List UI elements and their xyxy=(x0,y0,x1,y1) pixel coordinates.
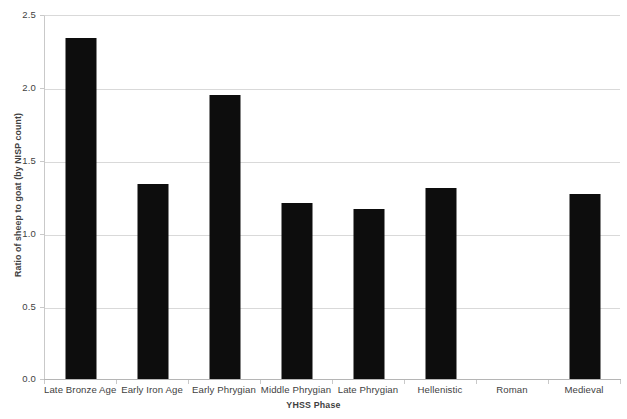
bar-medieval[interactable] xyxy=(570,194,601,379)
x-tick-label-middle-phrygian: Middle Phrygian xyxy=(260,384,332,395)
x-tick-mark-8 xyxy=(620,380,621,384)
bar-middle-phrygian[interactable] xyxy=(282,203,313,379)
plot-area xyxy=(44,15,620,379)
x-axis-title: YHSS Phase xyxy=(0,400,627,410)
x-tick-label-early-iron-age: Early Iron Age xyxy=(116,384,188,395)
bar-slot-early-iron-age xyxy=(117,16,189,379)
x-tick-label-hellenistic: Hellenistic xyxy=(404,384,476,395)
bar-slot-hellenistic xyxy=(405,16,477,379)
bar-early-iron-age[interactable] xyxy=(138,184,169,379)
bar-late-bronze-age[interactable] xyxy=(66,38,97,379)
bar-slot-medieval xyxy=(549,16,621,379)
bar-hellenistic[interactable] xyxy=(426,188,457,379)
bar-late-phrygian[interactable] xyxy=(354,209,385,379)
bar-chart-screenshot: 2.5 2.0 1.5 1.0 0.5 0.0 Ratio of sheep t… xyxy=(0,0,627,419)
x-tick-label-roman: Roman xyxy=(476,384,548,395)
bar-slot-early-phrygian xyxy=(189,16,261,379)
y-axis-title: Ratio of sheep to goat (by NISP count) xyxy=(13,95,23,295)
bar-slot-late-bronze-age xyxy=(45,16,117,379)
y-tick-label-0.5: 0.5 xyxy=(2,301,36,312)
x-tick-label-medieval: Medieval xyxy=(548,384,620,395)
y-tick-label-2.0: 2.0 xyxy=(2,82,36,93)
bar-slot-roman xyxy=(477,16,549,379)
bar-slot-middle-phrygian xyxy=(261,16,333,379)
bar-slot-late-phrygian xyxy=(333,16,405,379)
y-tick-label-2.5: 2.5 xyxy=(2,9,36,20)
x-tick-label-late-phrygian: Late Phrygian xyxy=(332,384,404,395)
x-tick-label-late-bronze-age: Late Bronze Age xyxy=(44,384,116,395)
x-tick-label-early-phrygian: Early Phrygian xyxy=(188,384,260,395)
bar-early-phrygian[interactable] xyxy=(210,95,241,379)
y-tick-label-0.0: 0.0 xyxy=(2,373,36,384)
